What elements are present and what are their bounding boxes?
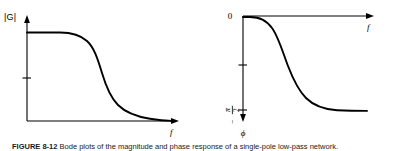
magnitude-y-axis-label: |G| — [4, 12, 16, 22]
figure-caption-body: Bode plots of the magnitude and phase re… — [60, 143, 339, 151]
phase-y-minus-half-pi-label: − π 2 — [223, 106, 241, 124]
phase-label-numerator: π — [223, 107, 232, 112]
phase-plot-svg: 0 − π 2 ϕ f — [202, 0, 404, 140]
phase-x-axis-label: f — [367, 22, 371, 32]
magnitude-x-axis-label: f — [170, 127, 174, 137]
phase-y-axis-label: ϕ — [241, 128, 246, 138]
magnitude-y-axis-arrowhead — [24, 15, 30, 23]
phase-label-denominator: 2 — [232, 108, 241, 112]
figure-caption: FIGURE 8-12 Bode plots of the magnitude … — [12, 143, 404, 151]
phase-x-axis-arrowhead — [366, 13, 374, 19]
figure-container: |G| f 0 − π 2 — [0, 0, 404, 151]
phase-label-sign: − — [228, 120, 237, 124]
phase-y-axis-arrowhead — [240, 114, 246, 122]
magnitude-plot-svg: |G| f — [0, 0, 202, 140]
magnitude-response-plot: |G| f — [0, 0, 202, 140]
phase-response-curve — [243, 17, 367, 111]
figure-caption-label: FIGURE 8-12 — [12, 143, 57, 151]
figure-caption-text: FIGURE 8-12 Bode plots of the magnitude … — [12, 143, 404, 151]
phase-response-plot: 0 − π 2 ϕ f — [202, 0, 404, 140]
phase-y-zero-label: 0 — [228, 11, 233, 21]
magnitude-response-curve — [27, 33, 172, 121]
